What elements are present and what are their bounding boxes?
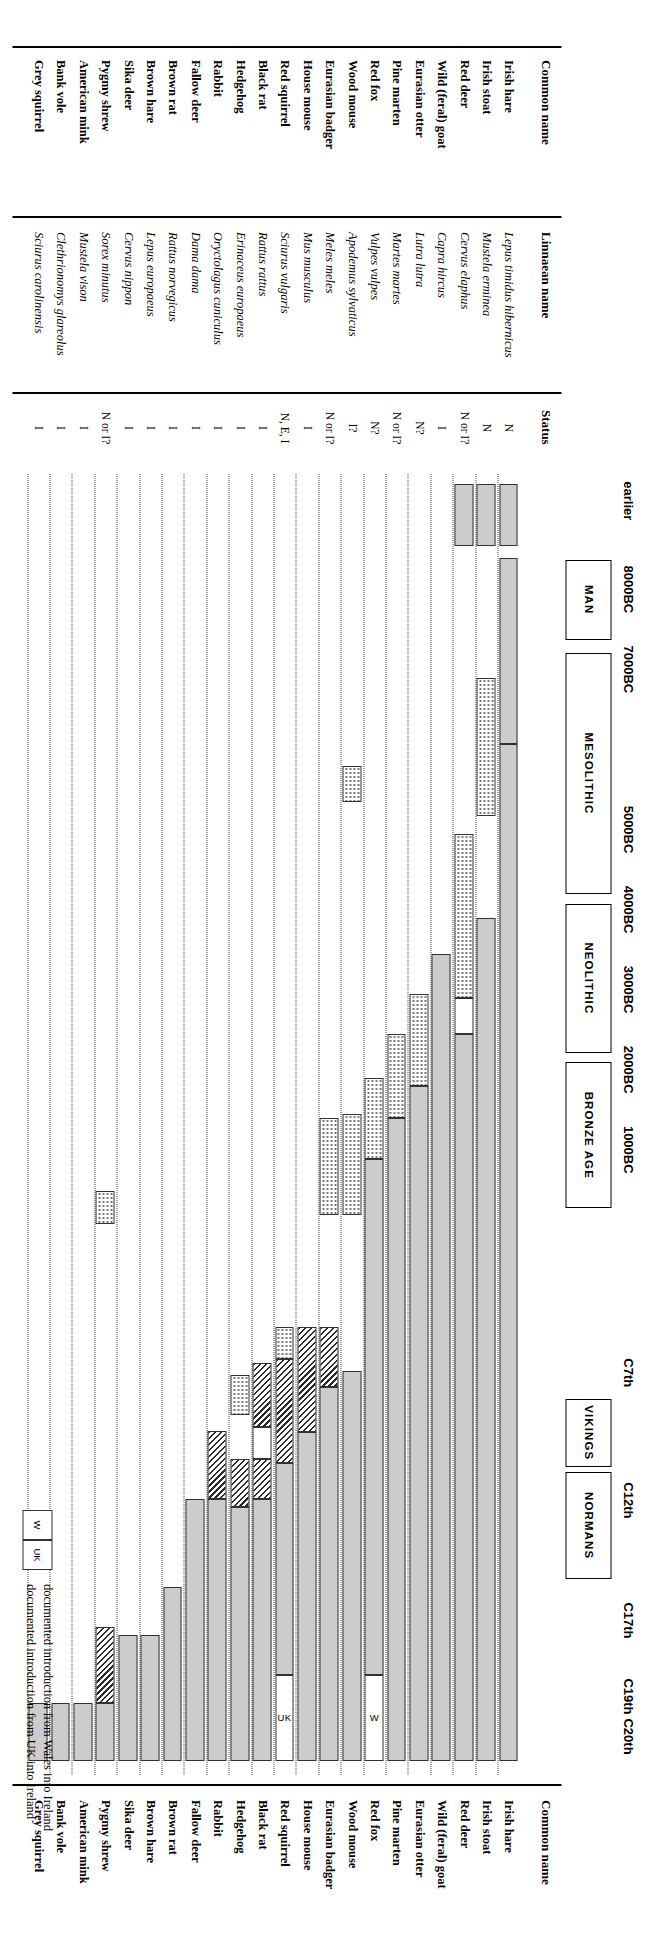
- species-status: I: [166, 400, 178, 456]
- era-box-mesolithic: MESOLITHIC: [565, 653, 611, 895]
- species-common-name: Red deer: [457, 60, 470, 108]
- bar-segment-dots: [342, 1114, 361, 1214]
- species-common-name: Rabbit: [211, 60, 224, 97]
- header-common-name-right: Common name: [537, 1800, 553, 1885]
- species-status: I: [256, 400, 268, 456]
- legend-intro-code: UK: [32, 1548, 43, 1561]
- species-common-name: House mouse: [300, 60, 313, 131]
- bar-segment-solid: [342, 1371, 361, 1761]
- species-linnaean-name: Martes martes: [390, 232, 403, 305]
- species-common-name-right: Wood mouse: [345, 1800, 358, 1868]
- row-baseline: [296, 474, 297, 1775]
- row-baseline: [408, 474, 409, 1775]
- header-linnaean-name: Linnaean name: [537, 232, 553, 318]
- row-baseline: [318, 474, 319, 1775]
- species-common-name-right: Rabbit: [211, 1800, 224, 1837]
- bar-segment-white: W: [364, 1675, 383, 1761]
- species-linnaean-name: Clethrionomys glareolus: [54, 232, 67, 356]
- row-baseline: [273, 474, 274, 1775]
- bar-segment-dots: [409, 994, 428, 1086]
- rotated-figure-wrapper: Common nameLinnaean nameStatusCommon nam…: [0, 0, 671, 1956]
- era-box-neolithic: NEOLITHIC: [565, 904, 611, 1053]
- species-common-name: Grey squirrel: [32, 60, 45, 132]
- species-linnaean-name: Apodemus sylvaticus: [345, 232, 358, 337]
- bar-segment-solid: [252, 1499, 271, 1761]
- row-baseline: [430, 474, 431, 1775]
- axis-tick-c20th: C20th: [620, 1718, 635, 1754]
- species-common-name: Sika deer: [121, 60, 134, 110]
- bar-segment-hatch: [95, 1627, 114, 1703]
- row-baseline: [94, 474, 95, 1775]
- species-common-name-right: Fallow deer: [188, 1800, 201, 1863]
- row-baseline: [116, 474, 117, 1775]
- row-baseline: [139, 474, 140, 1775]
- legend-intro-cell-w: W: [22, 1510, 52, 1540]
- bar-segment-hatch: [252, 1363, 271, 1427]
- species-linnaean-name: Rattus norvegicus: [166, 232, 179, 322]
- bar-segment-solid: [95, 1703, 114, 1761]
- axis-tick-earlier: earlier: [620, 481, 635, 520]
- species-linnaean-name: Lepus timidus hibernicus: [502, 232, 515, 358]
- species-common-name-right: Pine marten: [390, 1800, 403, 1866]
- axis-tick-c17th: C17th: [620, 1602, 635, 1638]
- era-label: MAN: [582, 585, 594, 615]
- species-linnaean-name: Lepus europaeus: [144, 232, 157, 317]
- bar-segment-solid: [476, 484, 495, 546]
- species-common-name: Brown rat: [166, 60, 179, 115]
- axis-tick-5000bc: 5000BC: [620, 806, 635, 854]
- species-status: N: [480, 400, 492, 456]
- table-divider-1: [12, 216, 561, 218]
- bar-segment-hatch: [230, 1459, 249, 1507]
- species-common-name: Bank vole: [54, 60, 67, 113]
- bar-segment-dots: [230, 1375, 249, 1415]
- bar-segment-hatch: [319, 1327, 338, 1387]
- species-status: N?: [412, 400, 424, 456]
- era-label: BRONZE AGE: [582, 1092, 594, 1179]
- table-divider-3: [12, 1784, 561, 1786]
- species-status: I?: [345, 400, 357, 456]
- axis-tick-c7th: C7th: [620, 1358, 635, 1387]
- species-linnaean-name: Vulpes vulpes: [368, 232, 381, 300]
- axis-tick-c19th: C19th: [620, 1678, 635, 1714]
- species-status: N or I?: [457, 400, 469, 456]
- era-label: NORMANS: [582, 1492, 594, 1559]
- bar-segment-solid: [364, 1159, 383, 1675]
- bar-segment-solid: [185, 1499, 204, 1761]
- species-linnaean-name: Cervus nippon: [121, 232, 134, 305]
- legend-intro-code: W: [32, 1521, 43, 1530]
- axis-tick-8000bc: 8000BC: [620, 565, 635, 613]
- species-status: I: [121, 400, 133, 456]
- species-linnaean-name: Sciurus carolinensis: [32, 232, 45, 333]
- bar-segment-solid: [476, 918, 495, 1760]
- axis-tick-4000bc: 4000BC: [620, 886, 635, 934]
- species-status: N or I?: [390, 400, 402, 456]
- species-common-name: Irish stoat: [480, 60, 493, 115]
- species-common-name: American mink: [76, 60, 89, 144]
- species-common-name-right: Pygmy shrew: [99, 1800, 112, 1872]
- species-common-name: Eurasian otter: [412, 60, 425, 137]
- species-common-name-right: Hedgehog: [233, 1800, 246, 1853]
- bar-segment-dots: [476, 678, 495, 816]
- species-common-name: Red squirrel: [278, 60, 291, 127]
- species-common-name-right: Irish hare: [502, 1800, 515, 1853]
- species-linnaean-name: Lutra lutra: [412, 232, 425, 287]
- table-divider-2: [12, 392, 561, 394]
- figure-page: Common nameLinnaean nameStatusCommon nam…: [0, 0, 671, 1956]
- species-status: N: [502, 400, 514, 456]
- bar-segment-dots: [275, 1327, 294, 1359]
- axis-tick-7000bc: 7000BC: [620, 646, 635, 694]
- bar-segment-solid: [431, 954, 450, 1760]
- row-baseline: [340, 474, 341, 1775]
- bar-segment-dots: [364, 1078, 383, 1158]
- bar-segment-solid: [499, 744, 518, 1761]
- era-label: MESOLITHIC: [582, 732, 594, 814]
- bar-segment-solid: [118, 1635, 137, 1761]
- bar-segment-hatch: [275, 1359, 294, 1463]
- bar-segment-solid: [454, 1034, 473, 1760]
- row-baseline: [228, 474, 229, 1775]
- bar-segment-white: [252, 1427, 271, 1459]
- bar-segment-solid: [297, 1432, 316, 1760]
- row-baseline: [251, 474, 252, 1775]
- legend-intro-text: documented introduction from UK into Ire…: [22, 1584, 37, 1819]
- legend-intro-text: documented introduction from Wales into …: [39, 1584, 54, 1831]
